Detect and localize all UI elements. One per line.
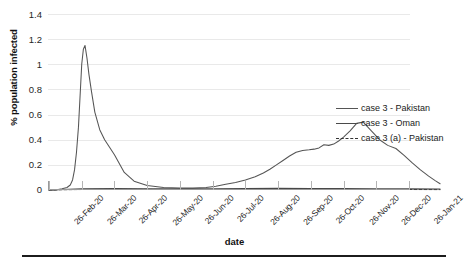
x-axis-tick [180,181,181,190]
x-tick-label: 26-Aug-20 [268,193,302,227]
x-axis-tick [245,181,246,190]
legend-item-oman[interactable]: case 3 - Oman [336,116,468,130]
x-axis-tick [409,181,410,190]
x-axis-tick [147,181,148,190]
x-tick-label: 26-Jul-20 [234,193,265,224]
y-tick-label: 0.6 [29,110,42,120]
x-axis-tick [213,181,214,190]
x-tick-label: 26-Oct-20 [333,193,366,226]
x-tick-label: 26-Jun-20 [203,193,236,226]
x-axis-tick [344,181,345,190]
legend-line-swatch-solid-icon [336,118,358,128]
legend-line-swatch-solid-icon [336,103,358,113]
y-tick-label: 0 [37,185,42,195]
legend-item-pakistan-a[interactable]: case 3 (a) - Pakistan [336,131,468,145]
x-axis-tick [82,181,83,190]
x-axis-tick [278,181,279,190]
x-axis-tick [311,181,312,190]
legend-line-swatch-dashed-icon [336,133,358,143]
x-tick-label: 26-Dec-20 [399,193,433,227]
y-tick-label: 0.8 [29,85,42,95]
legend-item-pakistan[interactable]: case 3 - Pakistan [336,101,468,115]
x-tick-label: 26-Nov-20 [367,193,401,227]
x-axis-tick [49,181,50,190]
x-axis-tick-labels: 26-Feb-2026-Mar-2026-Apr-2026-May-2026-J… [48,193,410,239]
x-tick-label: 26-May-20 [171,193,206,228]
legend-item-label: case 3 (a) - Pakistan [361,133,444,143]
y-tick-label: 0.4 [29,135,42,145]
x-tick-label: 26-Apr-20 [137,193,170,226]
x-tick-label: 26-Mar-20 [105,193,139,227]
y-axis-title: % population infected [8,3,19,153]
legend-item-label: case 3 - Oman [361,118,420,128]
y-tick-label: 1.2 [29,35,42,45]
chart-figure: 1.4 1.2 1 0.8 0.6 0.4 0.2 0 % population… [0,0,469,264]
x-axis-tick [376,181,377,190]
chart-legend: case 3 - Pakistan case 3 - Oman case 3 (… [336,101,468,146]
x-tick-label: 26-Feb-20 [72,193,106,227]
x-axis-tick [114,181,115,190]
x-tick-label: 26-Jan-21 [432,193,465,226]
x-axis-title: date [0,236,469,247]
x-tick-label: 26-Sep-20 [301,193,335,227]
y-tick-label: 1.4 [29,10,42,20]
legend-item-label: case 3 - Pakistan [361,103,430,113]
y-tick-label: 1 [37,60,42,70]
footer-divider [22,255,446,257]
y-tick-label: 0.2 [29,160,42,170]
y-axis-title-wrapper: % population infected [2,20,16,180]
category-axis-frame [48,181,410,190]
